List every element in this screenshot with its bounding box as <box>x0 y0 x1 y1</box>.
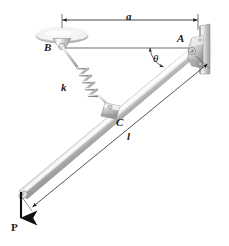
angle-theta-label: θ <box>153 53 158 64</box>
point-b-label: B <box>44 42 51 53</box>
length-l-label: l <box>127 131 130 142</box>
dimension-line-l <box>22 56 209 211</box>
mechanics-figure: a A B θ k C l P <box>0 0 229 246</box>
point-a-label: A <box>177 33 184 44</box>
wall-pin-support-A <box>188 36 203 68</box>
force-p-label: P <box>11 222 18 233</box>
rigid-bar <box>17 48 197 201</box>
coil-spring <box>63 48 111 108</box>
figure-canvas <box>0 0 229 246</box>
dimension-a-label: a <box>126 11 132 22</box>
point-c-label: C <box>116 117 123 128</box>
spring-constant-label: k <box>61 82 67 93</box>
